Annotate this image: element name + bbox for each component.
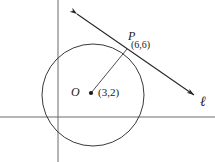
radius-segment bbox=[91, 49, 127, 93]
figure-canvas bbox=[0, 0, 215, 162]
geometry-figure: P (6,6) O (3,2) ℓ bbox=[0, 0, 215, 162]
circle-center-dot bbox=[89, 91, 93, 95]
circle-shape bbox=[42, 44, 144, 146]
tangent-line bbox=[77, 14, 194, 95]
